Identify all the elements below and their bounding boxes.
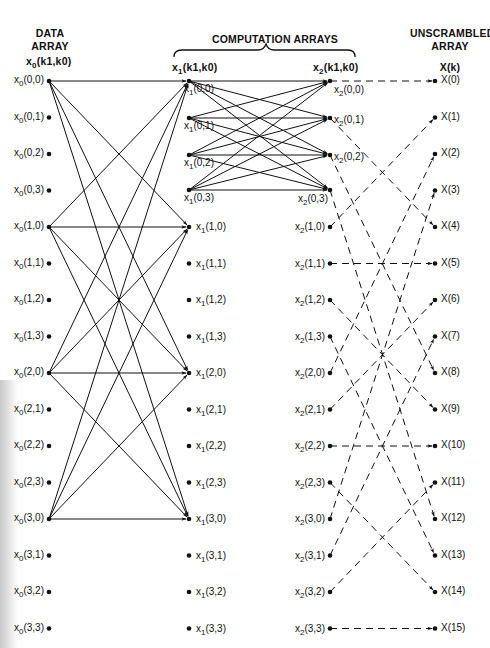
x2-label: x2(1,3) xyxy=(295,331,325,347)
x2-label: x2(3,2) xyxy=(295,586,325,602)
node-dot xyxy=(433,590,438,595)
flow-edge xyxy=(330,193,434,519)
node-dot xyxy=(187,626,192,631)
node-dot xyxy=(47,225,52,230)
x1-label: x1(3,3) xyxy=(196,623,226,639)
node-dot xyxy=(47,298,52,303)
x0-label: x0(1,3) xyxy=(14,330,44,346)
node-dot xyxy=(433,444,438,449)
x1-label: x1(0,1) xyxy=(184,120,214,136)
node-dot xyxy=(328,153,333,158)
node-dot xyxy=(433,152,438,157)
x2-label: x2(2,0) xyxy=(295,367,325,383)
node-dot xyxy=(328,298,333,303)
x2-label: x2(0,0) xyxy=(334,84,364,100)
x1-label: x1(2,0) xyxy=(196,367,226,383)
node-dot xyxy=(47,590,52,595)
node-dot xyxy=(328,334,333,339)
node-dot xyxy=(187,553,192,558)
output-label: X(10) xyxy=(441,439,465,451)
output-label: X(9) xyxy=(441,403,460,415)
x0-label: x0(3,1) xyxy=(14,549,44,565)
node-dot xyxy=(328,480,333,485)
node-dot xyxy=(47,334,52,339)
node-dot xyxy=(328,626,333,631)
node-dot xyxy=(328,517,333,522)
output-label: X(12) xyxy=(441,512,465,524)
node-dot xyxy=(433,298,438,303)
flow-edge xyxy=(49,84,188,373)
flow-edge xyxy=(330,302,433,409)
node-dot xyxy=(187,517,192,522)
x0-label: x0(2,2) xyxy=(14,439,44,455)
flow-edge xyxy=(330,483,433,590)
flow-edge xyxy=(49,81,188,516)
x0-label: x0(1,0) xyxy=(14,220,44,236)
x2-label: x2(1,1) xyxy=(295,258,325,274)
node-dot xyxy=(433,626,438,631)
x0-label: x0(2,3) xyxy=(14,476,44,492)
output-label: X(15) xyxy=(441,622,465,634)
x1-label: x1(1,3) xyxy=(196,331,226,347)
output-label: X(8) xyxy=(441,366,460,378)
x2-label: x2(3,3) xyxy=(295,623,325,639)
node-dot xyxy=(187,334,192,339)
x2-label: x2(0,1) xyxy=(334,114,364,130)
flow-edge xyxy=(330,485,433,592)
node-dot xyxy=(47,626,52,631)
output-label: X(0) xyxy=(441,74,460,86)
node-dot xyxy=(47,371,52,376)
flow-edge xyxy=(330,120,433,227)
flow-edge xyxy=(49,227,187,371)
node-dot xyxy=(328,407,333,412)
node-dot xyxy=(47,444,52,449)
x2-label: x2(0,2) xyxy=(334,151,364,167)
x1-label: x1(2,3) xyxy=(196,477,226,493)
x0-label: x0(3,2) xyxy=(14,585,44,601)
node-dot xyxy=(187,225,192,230)
x0-label: x0(3,3) xyxy=(14,622,44,638)
x2-label: x2(2,3) xyxy=(295,477,325,493)
node-dot xyxy=(187,590,192,595)
node-dot xyxy=(328,371,333,376)
x2-label: x2(1,2) xyxy=(295,294,325,310)
x0-label: x0(3,0) xyxy=(14,512,44,528)
node-dot xyxy=(328,261,333,266)
x0-label: x0(2,1) xyxy=(14,403,44,419)
node-dot xyxy=(433,553,438,558)
x0-label: x0(0,1) xyxy=(14,111,44,127)
node-dot xyxy=(433,334,438,339)
flow-edge xyxy=(49,227,188,516)
flow-edge xyxy=(330,157,434,373)
x2-label: x2(0,3) xyxy=(298,193,328,209)
computation-brace xyxy=(174,44,355,57)
x2-label: x2(3,1) xyxy=(295,550,325,566)
node-dot xyxy=(47,407,52,412)
flow-edge xyxy=(330,300,433,407)
x1-label: x1(0,3) xyxy=(184,192,214,208)
x0-label: x0(0,3) xyxy=(14,184,44,200)
node-dot xyxy=(47,553,52,558)
output-label: X(13) xyxy=(441,549,465,561)
node-dot xyxy=(187,261,192,266)
node-dot xyxy=(433,225,438,230)
node-dot xyxy=(187,298,192,303)
flow-edge xyxy=(49,230,188,519)
node-dot xyxy=(433,115,438,120)
node-dot xyxy=(47,480,52,485)
output-label: X(6) xyxy=(441,293,460,305)
x0-label: x0(0,2) xyxy=(14,147,44,163)
node-dot xyxy=(47,152,52,157)
node-dot xyxy=(187,371,192,376)
output-label: X(7) xyxy=(441,330,460,342)
output-label: X(11) xyxy=(441,476,465,488)
node-dot xyxy=(433,407,438,412)
node-dot xyxy=(47,517,52,522)
x2-label: x2(2,1) xyxy=(295,404,325,420)
output-label: X(1) xyxy=(441,111,460,123)
flow-edge xyxy=(49,81,188,370)
node-dot xyxy=(433,371,438,376)
node-dot xyxy=(328,188,333,193)
node-dot xyxy=(433,188,438,193)
node-dot xyxy=(47,115,52,120)
